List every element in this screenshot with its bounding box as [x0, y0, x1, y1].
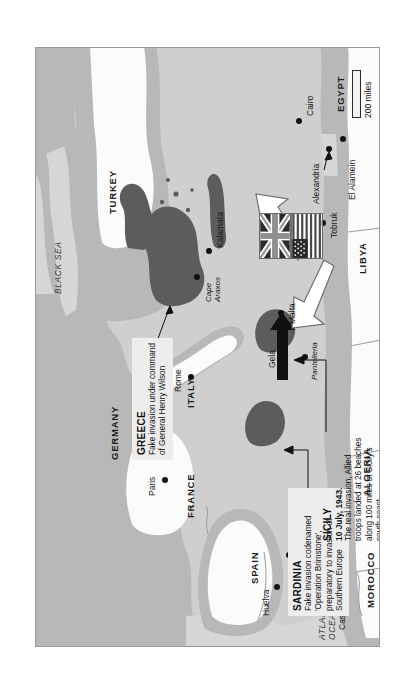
label-cape-araxos: Cape Araxos: [204, 277, 222, 302]
label-huelva: Huelva: [262, 590, 272, 616]
dot-rome: [188, 374, 194, 380]
label-tobruk: Tobruk: [330, 212, 340, 238]
label-turkey: TURKEY: [108, 170, 119, 214]
dot-el-alamein: [340, 136, 346, 142]
dot-alexandria: [326, 146, 332, 152]
united-states-flag: [292, 214, 322, 258]
dot-cairo: [296, 118, 302, 124]
label-alexandria: Alexandria: [312, 164, 322, 204]
label-paris: Paris: [148, 477, 158, 496]
callout-greece-body: Fake invasion under command of General H…: [148, 343, 169, 455]
dot-pantelleria: [302, 354, 308, 360]
callout-sicily: SICILY 10 July, 1943. The real invasion,…: [318, 426, 380, 546]
callout-sicily-body: The real invasion, Allied troops landed …: [344, 431, 380, 541]
label-egypt: EGYPT: [336, 76, 347, 112]
label-rome: Rome: [174, 369, 184, 392]
label-pantelleria: Pantelleria: [310, 342, 319, 380]
leader-sardinia: [284, 446, 308, 494]
dot-malta: [278, 310, 284, 316]
label-black-sea: BLACK SEA: [54, 241, 64, 294]
dot-paris: [162, 477, 168, 483]
union-jack-glyph: [260, 214, 290, 258]
dot-gela: [282, 342, 288, 348]
label-italy: ITALY: [186, 378, 197, 408]
scale-bar-graphic: [352, 70, 361, 118]
label-france: FRANCE: [186, 474, 197, 518]
map-page: ATLANTIC OCEAN BLACK SEA GERMANY FRANCE …: [0, 0, 414, 695]
callout-greece: GREECE Fake invasion under command of Ge…: [132, 338, 173, 460]
dot-kalamata: [206, 248, 212, 254]
label-gela: Gela: [268, 350, 278, 368]
us-flag-glyph: [292, 214, 322, 258]
label-germany: GERMANY: [110, 406, 121, 460]
mediterranean-theatre-map: ATLANTIC OCEAN BLACK SEA GERMANY FRANCE …: [35, 47, 380, 647]
label-kalamata: Kalamata: [216, 212, 226, 248]
label-malta: Malta: [288, 303, 298, 324]
label-morocco: MOROCCO: [366, 552, 377, 608]
callout-sicily-subheading: 10 July, 1943.: [334, 431, 344, 541]
label-cairo: Cairo: [306, 96, 316, 116]
leader-alexandria: [324, 152, 332, 170]
callout-greece-heading: GREECE: [136, 343, 147, 455]
dot-huelva: [274, 584, 280, 590]
scale-bar-label: 200 miles: [363, 70, 373, 118]
scale-bar: 200 miles: [352, 70, 373, 118]
label-el-alamein: El Alamein: [348, 160, 358, 200]
callout-sardinia-heading: SARDINIA: [292, 493, 303, 611]
callout-sicily-heading: SICILY: [322, 431, 333, 541]
label-spain: SPAIN: [250, 552, 261, 584]
label-libya: LIBYA: [358, 242, 369, 274]
union-jack-flag: [260, 214, 290, 258]
dot-cape-araxos: [194, 274, 200, 280]
